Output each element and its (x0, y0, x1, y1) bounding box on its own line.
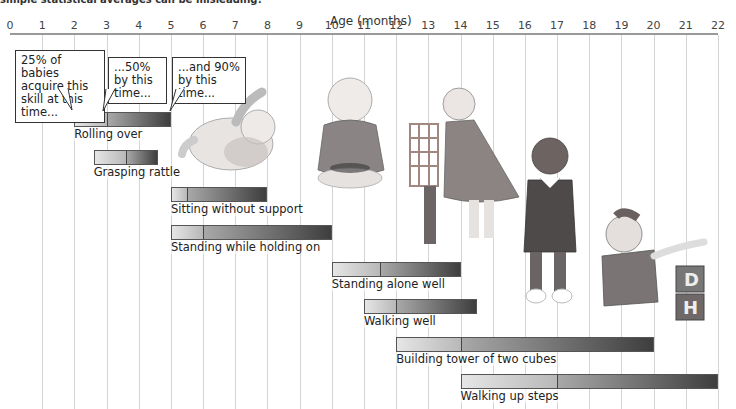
milestone-bar (364, 299, 477, 314)
x-tick-label: 10 (325, 19, 339, 32)
x-tick-label: 5 (167, 19, 174, 32)
bar-segment-25-to-50 (397, 338, 461, 351)
x-tick-label: 16 (518, 19, 532, 32)
callout-50-pointer (102, 89, 120, 113)
gridline (300, 35, 301, 409)
x-tick-label: 1 (39, 19, 46, 32)
bar-segment-50-to-90 (558, 375, 717, 388)
x-tick-label: 14 (454, 19, 468, 32)
x-tick-label: 18 (582, 19, 596, 32)
bar-segment-50-to-90 (188, 188, 266, 201)
bar-segment-50-to-90 (204, 226, 331, 239)
bar-segment-50-to-90 (397, 300, 475, 313)
milestone-label: Sitting without support (171, 202, 303, 216)
bar-segment-25-to-50 (333, 263, 381, 276)
toddler-with-blocks-illustration: D H (594, 206, 712, 331)
x-tick-label: 7 (232, 19, 239, 32)
x-tick-label: 2 (71, 19, 78, 32)
milestone-bar (332, 262, 461, 277)
x-tick-label: 19 (614, 19, 628, 32)
x-tick-label: 9 (296, 19, 303, 32)
x-tick-label: 17 (550, 19, 564, 32)
x-tick-label: 13 (421, 19, 435, 32)
toddler-walking-illustration (510, 132, 590, 312)
x-tick-label: 6 (200, 19, 207, 32)
callout-90-pointer (168, 89, 188, 113)
x-tick-label: 12 (389, 19, 403, 32)
bar-segment-50-to-90 (127, 151, 157, 164)
bar-segment-25-to-50 (172, 188, 188, 201)
milestone-label: Grasping rattle (94, 165, 180, 179)
x-tick-label: 4 (135, 19, 142, 32)
gridline (718, 35, 719, 409)
x-tick-label: 15 (486, 19, 500, 32)
milestone-bar (461, 374, 718, 389)
milestone-bar (171, 187, 268, 202)
svg-text:D: D (684, 269, 699, 290)
bar-segment-50-to-90 (462, 338, 653, 351)
baby-standing-holding-illustration (404, 82, 522, 247)
x-tick-label: 20 (647, 19, 661, 32)
bar-segment-25-to-50 (365, 300, 397, 313)
x-tick-label: 11 (357, 19, 371, 32)
milestone-label: Walking well (364, 314, 436, 328)
milestone-label: Rolling over (74, 127, 142, 141)
milestone-bar (396, 337, 653, 352)
milestone-bar (94, 150, 158, 165)
callout-25-percent: 25% of babies acquire this skill at this… (15, 50, 105, 123)
baby-sitting-illustration (310, 70, 396, 192)
x-tick-label: 0 (7, 19, 14, 32)
x-tick-label: 8 (264, 19, 271, 32)
x-tick-label: 22 (711, 19, 725, 32)
bar-segment-50-to-90 (108, 113, 170, 126)
milestone-label: Building tower of two cubes (396, 352, 556, 366)
milestone-label: Standing while holding on (171, 240, 320, 254)
x-tick-label: 21 (679, 19, 693, 32)
bar-segment-25-to-50 (95, 151, 127, 164)
bar-segment-25-to-50 (172, 226, 204, 239)
x-tick-label: 3 (103, 19, 110, 32)
svg-text:H: H (683, 297, 698, 318)
chart-caption: simple statistical averages can be misle… (0, 0, 262, 5)
bar-segment-50-to-90 (381, 263, 459, 276)
callout-25-pointer (58, 88, 78, 112)
milestone-label: Standing alone well (332, 277, 445, 291)
milestone-bar (171, 225, 332, 240)
bar-segment-25-to-50 (462, 375, 559, 388)
milestone-label: Walking up steps (461, 389, 559, 403)
